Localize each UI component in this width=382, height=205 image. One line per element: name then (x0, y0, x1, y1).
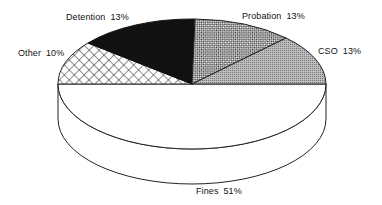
label-other: Other10% (18, 48, 64, 58)
label-detention-name: Detention (66, 12, 105, 22)
label-probation-pct: 13% (286, 11, 304, 21)
label-cso: CSO13% (318, 46, 361, 56)
label-detention-pct: 13% (110, 12, 128, 22)
label-other-pct: 10% (46, 48, 64, 58)
label-detention: Detention13% (66, 12, 129, 22)
label-fines-name: Fines (196, 186, 219, 196)
label-cso-name: CSO (318, 46, 338, 56)
label-other-name: Other (18, 48, 41, 58)
label-probation: Probation13% (242, 11, 305, 21)
label-cso-pct: 13% (343, 46, 361, 56)
label-fines-pct: 51% (224, 186, 242, 196)
label-fines: Fines51% (196, 186, 242, 196)
pie-chart (0, 0, 382, 205)
label-probation-name: Probation (242, 11, 281, 21)
